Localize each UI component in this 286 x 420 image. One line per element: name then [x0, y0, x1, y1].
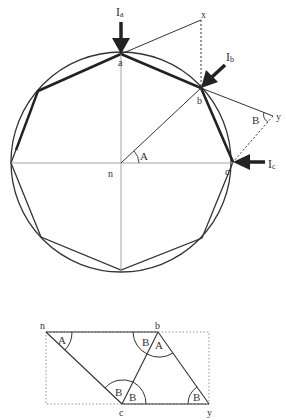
angle-a-arc — [134, 151, 139, 163]
angle-label-c-left: B — [115, 386, 122, 398]
angle-label-b: B — [252, 114, 259, 126]
point-label-c: c — [225, 166, 230, 177]
point-label-y: y — [276, 111, 281, 122]
point-label-x: x — [201, 9, 206, 20]
force-label-a: Ia — [116, 5, 124, 19]
force-label-c: Ic — [268, 157, 276, 171]
angle-label-n: A — [58, 334, 66, 346]
angle-arc-b-right — [147, 353, 173, 357]
force-arrow-a-icon — [112, 22, 130, 54]
point-label-n-bottom: n — [40, 320, 45, 331]
point-label-b: b — [197, 95, 202, 106]
angle-label-b-left: B — [142, 336, 149, 348]
polygon-force-diagram: Ia Ib Ic a b c n x y A B n b c y A B — [0, 0, 286, 420]
edge-bc — [122, 332, 158, 404]
force-label-b: Ib — [226, 50, 234, 64]
tangent-ax — [121, 20, 201, 54]
angle-label-c-right: B — [129, 391, 136, 403]
point-label-c-bottom: c — [119, 407, 124, 418]
top-diagram: Ia Ib Ic a b c n x y A B — [11, 5, 281, 272]
angle-label-y: B — [193, 391, 200, 403]
polygon-thick-edges — [38, 54, 233, 162]
point-label-a: a — [118, 57, 123, 68]
radius-nb — [121, 88, 201, 163]
bottom-diagram: n b c y A B A B B B — [40, 320, 212, 418]
angle-label-a: A — [140, 150, 148, 162]
angle-arc-n — [65, 332, 72, 350]
force-arrow-b-icon — [201, 65, 225, 88]
point-label-n: n — [108, 168, 113, 179]
angle-label-b-right: A — [155, 339, 163, 351]
point-label-b-bottom: b — [155, 320, 160, 331]
point-label-y-bottom: y — [207, 407, 212, 418]
edge-by — [158, 332, 209, 404]
